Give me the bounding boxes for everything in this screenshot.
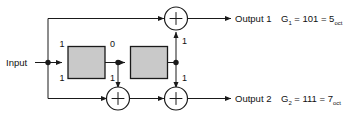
generator-1-equation: = 101 = 5 <box>294 13 334 24</box>
junction-dot-stage-1 <box>115 60 120 65</box>
tap-label-stage1-bottom: 1 <box>110 73 115 83</box>
tap-label-stage2-top: 1 <box>182 36 187 46</box>
generator-2-symbol: G <box>281 93 288 104</box>
output-1-label: Output 1 <box>235 13 271 24</box>
generator-2-equation: = 111 = 7 <box>294 93 333 104</box>
junction-dot-stage-2 <box>173 60 178 65</box>
shift-register-block-2 <box>131 47 168 79</box>
output-2-label: Output 2 <box>235 93 271 104</box>
generator-1-symbol: G <box>281 13 288 24</box>
tap-label-stage0-top: 1 <box>60 39 65 49</box>
input-label: Input <box>6 57 27 68</box>
generator-2-expression: G2= 111 = 7oct <box>281 93 341 106</box>
generator-2-equation-subscript: oct <box>333 100 341 106</box>
generator-1-subscript: 1 <box>288 20 292 26</box>
tap-label-stage0-bottom: 1 <box>60 73 65 83</box>
generator-1-equation-subscript: oct <box>334 20 342 26</box>
generator-2-subscript: 2 <box>288 100 292 106</box>
diagram-canvas: Input 1 1 0 1 1 1 Output 1 G1= 101 = 5oc… <box>0 0 345 117</box>
shift-register-block-1 <box>68 47 105 79</box>
tap-label-stage2-bottom: 1 <box>182 73 187 83</box>
tap-label-stage1-top: 0 <box>110 39 115 49</box>
junction-dot-stage-0 <box>45 60 50 65</box>
generator-1-expression: G1= 101 = 5oct <box>281 13 343 26</box>
convolutional-encoder-diagram: Input 1 1 0 1 1 1 Output 1 G1= 101 = 5oc… <box>0 0 345 117</box>
